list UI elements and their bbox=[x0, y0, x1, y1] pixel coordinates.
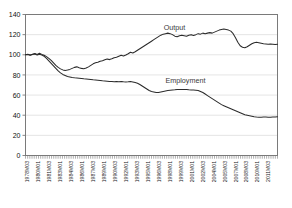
x-tick-label: 1987M03 bbox=[90, 161, 96, 182]
x-tick-label: 1986M01 bbox=[79, 161, 85, 182]
x-tick-label: 1992M01 bbox=[123, 161, 129, 182]
series-annotation-employment: Employment bbox=[165, 76, 205, 85]
y-tick-label: 0 bbox=[17, 152, 21, 159]
series-annotations-group: OutputEmployment bbox=[164, 23, 206, 85]
x-tick-label: 2007M01 bbox=[233, 161, 239, 182]
x-tick-label: 2008M03 bbox=[243, 161, 249, 182]
y-tick-label: 120 bbox=[9, 31, 21, 38]
y-tick-label: 100 bbox=[9, 51, 21, 58]
y-tick-label: 20 bbox=[13, 132, 21, 139]
series-group bbox=[26, 29, 278, 117]
x-tick-label: 1998M01 bbox=[167, 161, 173, 182]
x-tick-label: 1978M03 bbox=[24, 161, 30, 182]
x-tick-label: 1996M03 bbox=[156, 161, 162, 182]
x-axis-labels-group: 1978M031980M011981M031983M011984M031986M… bbox=[24, 161, 271, 182]
x-tick-label: 1999M03 bbox=[178, 161, 184, 182]
x-tick-label: 1993M03 bbox=[134, 161, 140, 182]
x-tick-label: 2005M03 bbox=[222, 161, 228, 182]
x-tick-label: 2004M01 bbox=[211, 161, 217, 182]
y-tick-label: 140 bbox=[9, 11, 21, 18]
x-tick-label: 1989M01 bbox=[101, 161, 107, 182]
x-tick-label: 1995M01 bbox=[145, 161, 151, 182]
y-tick-label: 60 bbox=[13, 92, 21, 99]
y-tick-label: 40 bbox=[13, 112, 21, 119]
line-chart: 020406080100120140 OutputEmployment 1978… bbox=[0, 0, 292, 208]
x-tick-label: 1990M03 bbox=[112, 161, 118, 182]
y-tick-label: 80 bbox=[13, 72, 21, 79]
plot-area-frame bbox=[26, 15, 278, 156]
x-tick-label: 2011M03 bbox=[265, 161, 271, 182]
x-tick-label: 2002M03 bbox=[200, 161, 206, 182]
series-annotation-output: Output bbox=[164, 23, 186, 32]
y-axis-ticks-group: 020406080100120140 bbox=[9, 11, 26, 159]
x-tick-label: 1983M01 bbox=[57, 161, 63, 182]
series-line-employment bbox=[26, 54, 278, 117]
x-tick-label: 1981M03 bbox=[46, 161, 52, 182]
x-tick-label: 2001M01 bbox=[189, 161, 195, 182]
series-line-output bbox=[26, 29, 278, 70]
x-tick-label: 1980M01 bbox=[35, 161, 41, 182]
x-tick-label: 2010M01 bbox=[254, 161, 260, 182]
chart-container: 020406080100120140 OutputEmployment 1978… bbox=[0, 0, 292, 208]
x-tick-label: 1984M03 bbox=[68, 161, 74, 182]
